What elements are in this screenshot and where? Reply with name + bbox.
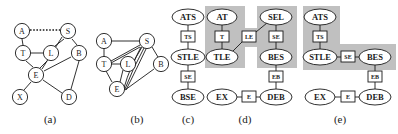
node-a-D-label: D (66, 93, 72, 102)
node-a-L-label: L (49, 49, 54, 58)
separator-d-EB-label: EB (272, 74, 280, 80)
clique-c-ATS-label: ATS (180, 12, 196, 22)
separator-e-TS-label: TS (316, 34, 324, 40)
clique-d-SEL[interactable]: SEL (260, 9, 292, 25)
figure-panels: A S T L B (0, 0, 398, 134)
edge-b-T-E (106, 71, 112, 82)
clique-e-EX-label: EX (314, 92, 327, 102)
clique-d-EX[interactable]: EX (207, 89, 237, 105)
clique-d-BES-label: BES (268, 52, 284, 62)
separator-c-TS[interactable]: TS (181, 31, 195, 42)
clique-e-BES-label: BES (367, 52, 383, 62)
clique-c-STLE[interactable]: STLE (171, 49, 205, 65)
node-a-B[interactable]: B (71, 45, 86, 60)
edge-a-E-X (24, 82, 31, 90)
clique-c-BSE-label: BSE (180, 92, 196, 102)
separator-d-SE-label: SE (272, 34, 279, 40)
node-a-B-label: B (76, 49, 81, 58)
separator-d-T-label: T (220, 34, 224, 40)
node-a-T[interactable]: T (15, 45, 30, 60)
node-b-S[interactable]: S (139, 33, 154, 48)
clique-c-BSE[interactable]: BSE (172, 89, 204, 105)
clique-e-DEB-label: DEB (366, 92, 384, 102)
panel-e: ATS TS STLE SE BES EB (303, 9, 391, 105)
node-b-T-label: T (102, 60, 107, 69)
node-b-E[interactable]: E (109, 81, 124, 96)
node-a-T-label: T (21, 49, 26, 58)
node-a-X-label: X (17, 93, 23, 102)
clique-d-BES[interactable]: BES (260, 49, 292, 65)
separator-c-SE[interactable]: SE (181, 71, 195, 82)
clique-e-ATS-label: ATS (312, 12, 328, 22)
caption-panel-e: (e) (320, 113, 360, 125)
panel-a: A S T L B (12, 23, 86, 104)
clique-d-TLE[interactable]: TLE (206, 49, 238, 65)
separator-e-EB-label: EB (371, 74, 379, 80)
separator-e-E-label: E (346, 94, 350, 100)
node-a-S[interactable]: S (60, 23, 75, 38)
caption-panel-c: (c) (168, 113, 208, 125)
edge-a-A-T (22, 39, 23, 45)
edge-b-L-E (120, 70, 123, 82)
separator-e-SE-label: SE (344, 54, 351, 60)
node-b-B-label: B (158, 60, 163, 69)
separator-c-TS-label: TS (184, 34, 192, 40)
node-a-E-label: E (34, 71, 39, 80)
node-b-T[interactable]: T (96, 56, 111, 71)
panel-d: AT SEL T LE SE TLE (206, 9, 292, 105)
panel-b-nodes: A S T L B (96, 33, 168, 96)
separator-d-E[interactable]: E (242, 91, 256, 102)
caption-panel-d: (d) (225, 113, 265, 125)
clique-e-DEB[interactable]: DEB (359, 89, 391, 105)
panel-a-nodes: A S T L B (12, 23, 86, 104)
separator-d-LE[interactable]: LE (242, 31, 256, 42)
separator-d-E-label: E (247, 94, 251, 100)
node-a-D[interactable]: D (61, 89, 76, 104)
clique-c-ATS[interactable]: ATS (172, 9, 204, 25)
clique-d-SEL-label: SEL (268, 12, 284, 22)
separator-d-T[interactable]: T (215, 31, 229, 42)
panel-c: ATS TS STLE SE BSE (171, 9, 205, 105)
clique-d-DEB[interactable]: DEB (260, 89, 292, 105)
separator-e-E[interactable]: E (341, 91, 355, 102)
edge-a-S-L (55, 39, 64, 46)
clique-e-STLE[interactable]: STLE (303, 49, 337, 65)
caption-panel-b: (b) (117, 113, 157, 125)
clique-d-TLE-label: TLE (213, 52, 230, 62)
caption-panel-a: (a) (30, 113, 70, 125)
node-a-A-label: A (19, 27, 25, 36)
separator-d-EB[interactable]: EB (269, 71, 283, 82)
clique-e-STLE-label: STLE (309, 52, 331, 62)
clique-e-BES[interactable]: BES (359, 49, 391, 65)
clique-d-AT[interactable]: AT (207, 9, 237, 25)
separator-c-SE-label: SE (184, 74, 191, 80)
clique-e-EX[interactable]: EX (305, 89, 335, 105)
clique-c-STLE-label: STLE (177, 52, 199, 62)
node-b-L-label: L (126, 60, 131, 69)
node-b-A[interactable]: A (96, 33, 111, 48)
node-a-L[interactable]: L (43, 45, 58, 60)
separator-e-TS[interactable]: TS (313, 31, 327, 42)
node-b-E-label: E (115, 85, 120, 94)
node-b-A-label: A (101, 37, 107, 46)
clique-d-DEB-label: DEB (267, 92, 285, 102)
edge-a-B-D (71, 61, 79, 89)
node-a-A[interactable]: A (14, 23, 29, 38)
edge-a-S-B (72, 39, 77, 45)
clique-d-AT-label: AT (216, 12, 228, 22)
node-b-S-label: S (145, 37, 149, 46)
separator-e-EB[interactable]: EB (368, 71, 382, 82)
node-a-S-label: S (66, 27, 70, 36)
separator-e-SE[interactable]: SE (341, 51, 355, 62)
separator-d-SE[interactable]: SE (269, 31, 283, 42)
clique-d-EX-label: EX (216, 92, 229, 102)
node-a-E[interactable]: E (28, 67, 43, 82)
edge-a-E-D (43, 80, 62, 93)
edge-b-S-B (152, 47, 158, 57)
clique-e-ATS[interactable]: ATS (304, 9, 336, 25)
node-a-X[interactable]: X (12, 89, 27, 104)
panel-b: A S T L B (96, 33, 168, 96)
separator-d-LE-label: LE (245, 34, 253, 40)
node-b-B[interactable]: B (153, 56, 168, 71)
node-b-L[interactable]: L (120, 56, 135, 71)
